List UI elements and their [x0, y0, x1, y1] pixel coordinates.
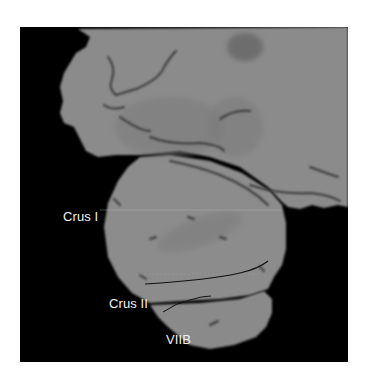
label-crus-i: Crus I — [63, 210, 98, 224]
brain-slice-image — [20, 27, 348, 362]
mri-image-frame — [20, 27, 348, 362]
label-viib: VIIB — [166, 333, 191, 347]
label-crus-ii: Crus II — [109, 297, 148, 311]
